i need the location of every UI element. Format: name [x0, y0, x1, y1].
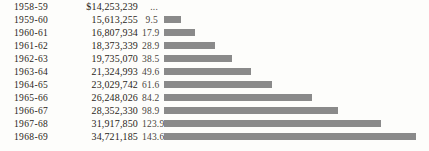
bar [164, 55, 232, 62]
row-amount-value: 28,352,330 [66, 105, 138, 116]
bar-cell [164, 55, 232, 62]
row-year-label: 1958-59 [14, 2, 68, 12]
bar [164, 81, 272, 88]
table-row: 1959-6015,613,2559.5 [0, 13, 429, 26]
row-amount-value: 21,324,993 [66, 66, 138, 77]
row-percent-value: ... [142, 2, 158, 12]
row-year-label: 1963-64 [14, 67, 68, 77]
row-year-label: 1965-66 [14, 93, 68, 103]
table-row: 1963-6421,324,99349.6 [0, 65, 429, 78]
table-row: 1964-6523,029,74261.6 [0, 78, 429, 91]
table-row: 1960-6116,807,93417.9 [0, 26, 429, 39]
row-percent-value: 38.5 [142, 54, 158, 64]
row-year-label: 1966-67 [14, 106, 68, 116]
bar [164, 29, 195, 36]
row-amount-value: 26,248,026 [66, 92, 138, 103]
row-amount-value: 16,807,934 [66, 27, 138, 38]
row-percent-value: 9.5 [142, 15, 158, 25]
bar [164, 94, 312, 101]
bar-cell [164, 16, 181, 23]
bar [164, 16, 181, 23]
row-year-label: 1968-69 [14, 132, 68, 142]
bar [164, 107, 338, 114]
table-row: 1962-6319,735,07038.5 [0, 52, 429, 65]
bar-cell [164, 81, 272, 88]
row-amount-value: 34,721,185 [66, 131, 138, 142]
bar-cell [164, 133, 416, 140]
bar-cell [164, 42, 215, 49]
row-percent-value: 98.9 [142, 106, 158, 116]
row-amount-value: 31,917,850 [66, 118, 138, 129]
row-year-label: 1967-68 [14, 119, 68, 129]
row-amount-value: 19,735,070 [66, 53, 138, 64]
row-amount-value: $14,253,239 [66, 1, 138, 12]
table-body: 1958-59$14,253,239...1959-6015,613,2559.… [0, 0, 429, 143]
bar-chart-table: 1958-59$14,253,239...1959-6015,613,2559.… [0, 0, 429, 151]
table-row: 1958-59$14,253,239... [0, 0, 429, 13]
table-row: 1968-6934,721,185143.6 [0, 130, 429, 143]
bar-cell [164, 29, 195, 36]
bar [164, 68, 251, 75]
bar-cell [164, 120, 381, 127]
row-year-label: 1959-60 [14, 15, 68, 25]
row-percent-value: 61.6 [142, 80, 158, 90]
row-year-label: 1961-62 [14, 41, 68, 51]
bar-cell [164, 94, 312, 101]
table-row: 1965-6626,248,02684.2 [0, 91, 429, 104]
bar [164, 42, 215, 49]
bar [164, 133, 416, 140]
row-year-label: 1960-61 [14, 28, 68, 38]
row-percent-value: 143.6 [142, 132, 158, 142]
bar-cell [164, 68, 251, 75]
table-row: 1961-6218,373,33928.9 [0, 39, 429, 52]
table-row: 1966-6728,352,33098.9 [0, 104, 429, 117]
row-year-label: 1962-63 [14, 54, 68, 64]
row-percent-value: 28.9 [142, 41, 158, 51]
row-amount-value: 23,029,742 [66, 79, 138, 90]
bar [164, 120, 381, 127]
row-percent-value: 123.9 [142, 119, 158, 129]
row-amount-value: 15,613,255 [66, 14, 138, 25]
row-year-label: 1964-65 [14, 80, 68, 90]
row-percent-value: 49.6 [142, 67, 158, 77]
bar-cell [164, 107, 338, 114]
row-percent-value: 84.2 [142, 93, 158, 103]
row-percent-value: 17.9 [142, 28, 158, 38]
row-amount-value: 18,373,339 [66, 40, 138, 51]
table-row: 1967-6831,917,850123.9 [0, 117, 429, 130]
